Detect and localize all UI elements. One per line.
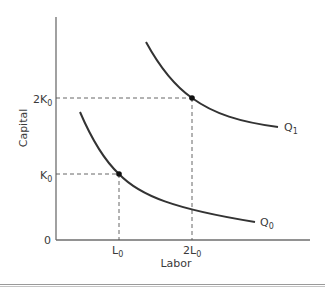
label-q1: Q1 xyxy=(284,121,298,136)
label-q0: Q0 xyxy=(260,216,274,231)
y-tick-k0: K0 xyxy=(40,169,52,184)
point-2l0-2k0 xyxy=(189,95,195,101)
y-tick-zero: 0 xyxy=(44,234,51,247)
bottom-rule-bottom xyxy=(0,286,325,287)
guide-lines xyxy=(56,98,192,240)
point-l0-k0 xyxy=(116,171,122,177)
isoquant-q0 xyxy=(80,112,255,222)
x-tick-l0: L0 xyxy=(112,244,123,259)
bottom-rule-top xyxy=(0,284,325,285)
x-axis-title: Labor xyxy=(160,257,192,270)
y-tick-2k0: 2K0 xyxy=(33,93,52,108)
isoquant-q1 xyxy=(146,42,278,127)
y-axis-title: Capital xyxy=(17,109,30,148)
isoquant-chart: 2K0 K0 0 L0 2L0 Labor Capital Q0 Q1 xyxy=(0,0,325,289)
